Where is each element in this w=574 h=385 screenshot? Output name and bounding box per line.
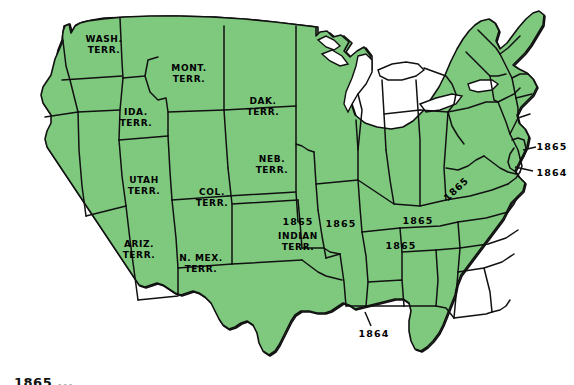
figure-caption: 1865 ...	[14, 375, 564, 385]
us-map-svg: .land { fill: #7fc97f; stroke: #111111; …	[0, 0, 574, 385]
national-outline-detailed	[41, 11, 544, 355]
historical-map-figure: .land { fill: #7fc97f; stroke: #111111; …	[0, 0, 574, 385]
